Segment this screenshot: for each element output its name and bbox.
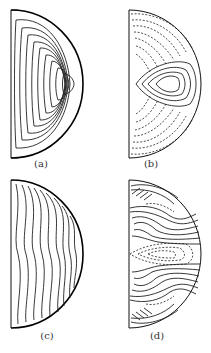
contour-plot-d (126, 178, 206, 330)
panel-label-a: (a) (26, 158, 56, 169)
panel-label-b: (b) (136, 158, 166, 169)
panel-d (126, 178, 206, 330)
contour-plot-b (126, 8, 206, 160)
panel-b (126, 8, 206, 160)
panel-label-c: (c) (32, 330, 62, 341)
contour-plot-a (8, 8, 88, 160)
panel-a (8, 8, 88, 160)
panel-c (8, 178, 88, 330)
contour-plot-c (8, 178, 88, 330)
panel-label-d: (d) (142, 330, 172, 341)
